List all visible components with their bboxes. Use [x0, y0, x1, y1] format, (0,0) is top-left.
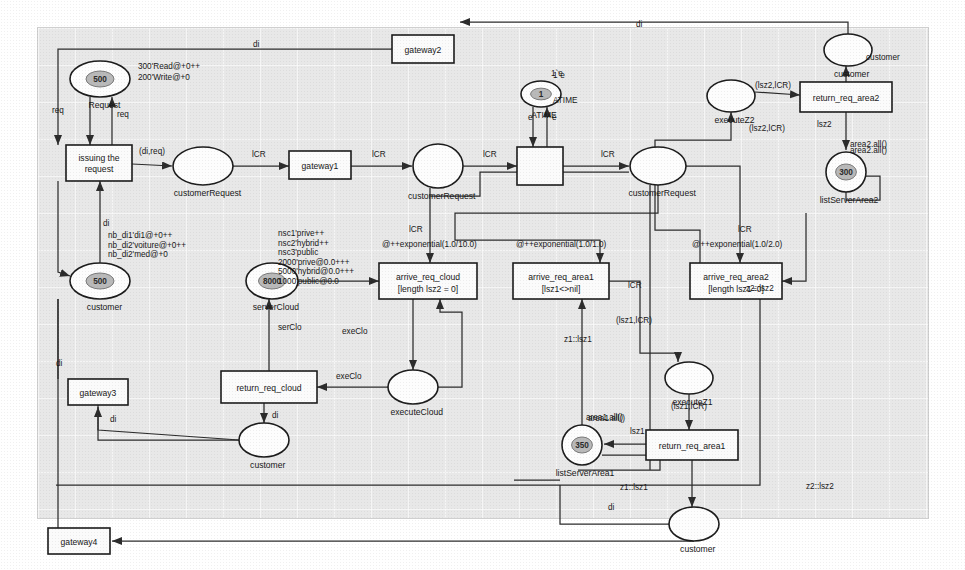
arc-label: lCR [628, 281, 642, 290]
place-shape [413, 144, 463, 188]
transition-shape [66, 145, 132, 181]
place-shape [669, 507, 719, 541]
arc-label: exeClo [342, 327, 368, 336]
arc-label: ATIME [553, 96, 578, 105]
place-shape [239, 423, 289, 457]
arc-label: serClo [278, 323, 302, 332]
arc-left-rail-customer [58, 181, 70, 276]
transition-guard: [lsz1<>nil] [542, 284, 581, 294]
transition-name: gateway3 [80, 388, 117, 398]
arc-label: area2.all() [850, 146, 887, 155]
arc-gateway3-feed [98, 405, 239, 440]
arc-label: di [56, 359, 63, 368]
place-customerrequest[interactable] [413, 144, 463, 188]
place-shape [665, 362, 713, 394]
arc-label: lsz2 [817, 120, 832, 129]
place-shape [707, 80, 755, 112]
arc-label: @++exponential(1.0/2.0) [692, 240, 783, 249]
transition-name: gateway1 [302, 161, 339, 171]
place-inscription: nb_di2'voiture@+0++ [108, 241, 186, 250]
place-name: Request [88, 100, 121, 110]
petri-net-svg: 500Request300'Read@+0++200'Write@+0custo… [0, 0, 965, 570]
transition-name: gateway2 [405, 45, 442, 55]
place-name: customerRequest [408, 191, 476, 201]
place-name: customerRequest [629, 188, 697, 198]
transition-unnamed[interactable] [517, 147, 563, 185]
arc-issuing-cr1 [132, 164, 172, 166]
arc-label: (lsz2,lCR) [755, 81, 791, 90]
transition-name: arrive_req_area1 [528, 272, 594, 282]
transition-guard: [length lsz2 = 0] [398, 284, 458, 294]
arc-label: req [117, 110, 129, 119]
place-name: customer [87, 302, 122, 312]
place-name: customer [250, 460, 285, 470]
arc-label: z2::lsz2 [746, 284, 774, 293]
place-name: customerRequest [174, 188, 242, 198]
place-inscription: 300'Read@+0++ [138, 62, 200, 71]
arc-executez2-returnarea2 [755, 92, 800, 95]
place-name: listServerArea2 [820, 195, 879, 205]
place-executez2[interactable] [707, 80, 755, 112]
arc-label: z1::lsz1 [620, 483, 648, 492]
transition-name: request [85, 164, 114, 174]
place-executecloud[interactable] [388, 370, 438, 404]
place-inscription: nb_di2'med@+0 [108, 250, 168, 259]
transition-name: return_req_area1 [659, 441, 726, 451]
place-shape [824, 34, 872, 66]
place-customerrequest[interactable] [173, 147, 233, 185]
place-inscription: nsc1'prive++ [278, 229, 324, 238]
place-marking: 500 [93, 75, 107, 84]
transition-issuing-the-request[interactable] [66, 145, 132, 181]
arc-label: z2::lsz2 [806, 482, 834, 491]
arc-label: di [608, 503, 615, 512]
transition-name: return_req_area2 [813, 93, 880, 103]
arc-executecloud-loop [438, 299, 462, 387]
arc-label: di [103, 219, 110, 228]
arc-label: e [528, 113, 533, 122]
arc-label: area1.all() [588, 414, 625, 423]
arc-label: exeClo [336, 372, 362, 381]
place-inscription: nb_di1'di1@+0++ [108, 231, 173, 240]
arc-label: lCR [601, 150, 615, 159]
arc-label: lCR [252, 150, 266, 159]
arc-label: di [110, 415, 117, 424]
place-customer[interactable] [239, 423, 289, 457]
place-inscription: 1000'public@0.0 [278, 277, 339, 286]
arc-label: lCR [372, 150, 386, 159]
arc-label: (lsz2,lCR) [749, 124, 785, 133]
place-customer[interactable] [669, 507, 719, 541]
diagram-stage: 500Request300'Read@+0++200'Write@+0custo… [0, 0, 965, 570]
place-marking: 300 [839, 168, 853, 177]
arc-lsa2-arrivearea2 [782, 213, 806, 281]
arc-label: di [636, 20, 643, 29]
arc-label: (lsz1,lCR) [616, 316, 652, 325]
arc-customer-gateway2 [460, 22, 848, 34]
arc-label: lCR [483, 150, 497, 159]
place-customerrequest[interactable] [630, 147, 686, 185]
place-customer[interactable] [824, 34, 872, 66]
arc-customerbr-rail [560, 485, 669, 524]
arc-label: e [552, 113, 557, 122]
arc-label: req [52, 106, 64, 115]
place-executez1[interactable] [665, 362, 713, 394]
place-shape [388, 370, 438, 404]
transition-name: arrive_req_cloud [396, 272, 460, 282]
arc-label: customer [866, 53, 900, 62]
place-name: serverCloud [253, 302, 300, 312]
arc-label: (lsz1,lCR) [671, 402, 707, 411]
place-shape [173, 147, 233, 185]
place-name: executeCloud [390, 407, 443, 417]
transition-name: return_req_cloud [237, 383, 302, 393]
transition-name: issuing the [78, 153, 119, 163]
arc-label: z1::lsz1 [564, 335, 592, 344]
arc-label: @++exponential(1.0/1.0) [516, 240, 607, 249]
arc-label: di [272, 411, 279, 420]
transition-shape [517, 147, 563, 185]
transition-name: arrive_req_area2 [703, 272, 769, 282]
place-inscription: 2000'prive@0.0+++ [278, 258, 350, 267]
place-marking: 500 [93, 277, 107, 286]
place-marking: 350 [575, 441, 589, 450]
place-shape [630, 147, 686, 185]
place-name: listServerArea1 [556, 468, 615, 478]
place-name: customer [680, 544, 715, 554]
